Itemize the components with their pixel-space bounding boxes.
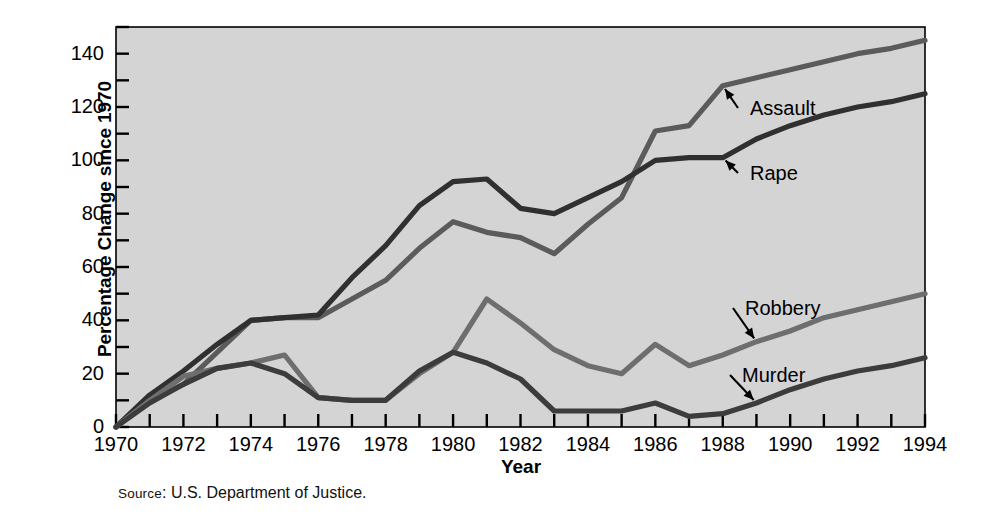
y-tick-label: 20 bbox=[42, 363, 104, 383]
y-tick-label: 60 bbox=[42, 256, 104, 276]
x-tick-label: 1994 bbox=[885, 434, 965, 454]
source-prefix: Source bbox=[118, 486, 162, 501]
series-label-assault: Assault bbox=[750, 98, 816, 118]
series-label-murder: Murder bbox=[742, 365, 805, 385]
y-tick-label: 40 bbox=[42, 309, 104, 329]
y-tick-label: 100 bbox=[42, 149, 104, 169]
y-tick-label: 120 bbox=[42, 96, 104, 116]
x-axis-title: Year bbox=[116, 456, 926, 478]
y-tick-label: 140 bbox=[42, 43, 104, 63]
series-label-robbery: Robbery bbox=[745, 298, 821, 318]
series-label-rape: Rape bbox=[750, 163, 798, 183]
y-tick-label: 80 bbox=[42, 203, 104, 223]
source-text: : U.S. Department of Justice. bbox=[162, 484, 367, 501]
chart-figure: Percentage Change since 1970 02040608010… bbox=[0, 0, 990, 520]
source-note: Source: U.S. Department of Justice. bbox=[118, 484, 367, 502]
